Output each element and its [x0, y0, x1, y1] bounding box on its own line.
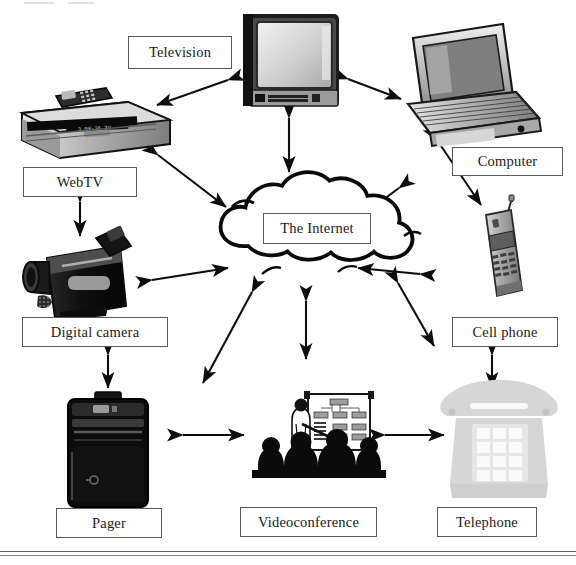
- arrow-television-computer: [348, 79, 401, 99]
- arrow-internet-pager-diagonal: [203, 292, 252, 383]
- arrow-webtv-internet: [158, 155, 226, 207]
- label-box-cellphone[interactable]: Cell phone: [452, 317, 558, 347]
- arrow-internet-telephone-diagonal: [398, 283, 434, 346]
- videoconference-icon: [252, 391, 386, 478]
- diagram-canvas: 3.08-36 3V: [0, 0, 576, 565]
- label-text-pager: Pager: [92, 516, 126, 531]
- laptop-computer-icon: [408, 24, 541, 147]
- label-text-telephone: Telephone: [456, 515, 518, 530]
- arrow-cellphone-internet: [358, 268, 420, 274]
- label-box-videoconference[interactable]: Videoconference: [240, 507, 377, 537]
- arrow-television-webtv: [157, 80, 228, 105]
- label-text-webtv: WebTV: [57, 175, 104, 190]
- label-text-videoconference: Videoconference: [258, 515, 359, 530]
- label-text-cellphone: Cell phone: [472, 325, 537, 340]
- webtv-set-top-box-icon: 3.08-36 3V: [22, 88, 170, 158]
- label-text-internet: The Internet: [280, 221, 354, 236]
- arrow-digitalcamera-internet: [152, 268, 228, 280]
- label-box-digital-camera[interactable]: Digital camera: [22, 317, 168, 347]
- pager-icon: [68, 392, 148, 507]
- label-box-television[interactable]: Television: [128, 36, 232, 69]
- scan-artifact-left: [24, 2, 54, 4]
- page-bottom-rule: [0, 551, 576, 556]
- label-text-digital-camera: Digital camera: [51, 325, 140, 340]
- cell-phone-icon: [486, 195, 522, 296]
- television-icon: [243, 14, 339, 106]
- label-box-pager[interactable]: Pager: [56, 508, 162, 538]
- label-box-internet[interactable]: The Internet: [263, 213, 371, 244]
- label-text-television: Television: [149, 45, 211, 60]
- camcorder-icon: [23, 225, 131, 320]
- desk-telephone-icon: [440, 380, 557, 498]
- label-box-webtv[interactable]: WebTV: [23, 167, 137, 197]
- label-box-telephone[interactable]: Telephone: [437, 507, 537, 537]
- connections-layer: 3.08-36 3V: [0, 0, 576, 565]
- label-text-computer: Computer: [478, 154, 538, 169]
- label-box-computer[interactable]: Computer: [452, 147, 563, 176]
- scan-artifact-right: [68, 2, 94, 4]
